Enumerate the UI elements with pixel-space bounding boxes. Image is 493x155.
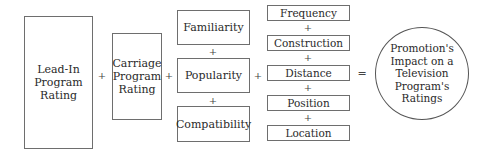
- result-circle: Promotion's Impact on a Television Progr…: [375, 27, 469, 120]
- plus-operator: +: [302, 23, 314, 33]
- equals-operator: =: [356, 69, 368, 79]
- familiarity-box: Familiarity: [177, 10, 250, 45]
- plus-operator: +: [207, 47, 219, 57]
- distance-box: Distance: [267, 65, 350, 81]
- familiarity-label: Familiarity: [183, 21, 243, 34]
- plus-operator: +: [163, 71, 175, 81]
- carriage-program-rating-box: Carriage Program Rating: [112, 33, 162, 120]
- frequency-label: Frequency: [280, 7, 337, 19]
- compatibility-label: Compatibility: [176, 118, 251, 131]
- location-box: Location: [267, 125, 350, 141]
- compatibility-box: Compatibility: [177, 106, 250, 142]
- plus-operator: +: [302, 83, 314, 93]
- carriage-label: Carriage Program Rating: [112, 57, 161, 96]
- construction-box: Construction: [267, 35, 350, 51]
- lead-in-program-rating-box: Lead-In Program Rating: [24, 16, 93, 149]
- plus-operator: +: [207, 96, 219, 106]
- plus-operator: +: [252, 71, 264, 81]
- construction-label: Construction: [274, 37, 343, 49]
- position-label: Position: [287, 97, 329, 109]
- location-label: Location: [285, 127, 331, 139]
- result-label: Promotion's Impact on a Television Progr…: [390, 42, 454, 105]
- plus-operator: +: [96, 71, 108, 81]
- distance-label: Distance: [285, 67, 332, 79]
- plus-operator: +: [302, 53, 314, 63]
- popularity-box: Popularity: [177, 58, 250, 93]
- position-box: Position: [267, 95, 350, 111]
- lead-in-label: Lead-In Program Rating: [34, 63, 83, 102]
- plus-operator: +: [302, 113, 314, 123]
- frequency-box: Frequency: [267, 5, 350, 21]
- popularity-label: Popularity: [185, 69, 242, 82]
